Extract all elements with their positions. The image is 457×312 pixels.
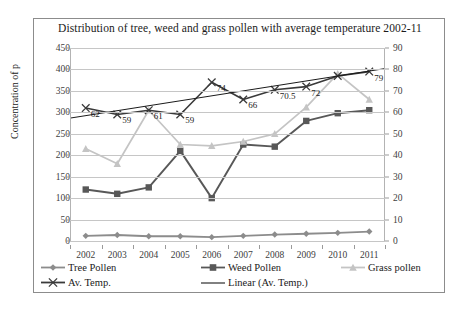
x-tick-mark xyxy=(228,245,229,249)
legend-label: Weed Pollen xyxy=(228,262,281,273)
y-tick-label-left: 250 xyxy=(34,129,70,139)
data-label: 59 xyxy=(185,115,194,125)
y-tick-label-left: 0 xyxy=(34,236,70,246)
legend-swatch-triangle-icon xyxy=(340,262,366,273)
gridline xyxy=(70,241,385,242)
y-tick-mark-right xyxy=(385,133,389,134)
y-tick-mark-right xyxy=(385,176,389,177)
legend-label: Tree Pollen xyxy=(68,262,116,273)
y-tick-label-right: 70 xyxy=(393,86,427,96)
y-tick-mark-right xyxy=(385,198,389,199)
y-tick-label-right: 20 xyxy=(393,193,427,203)
y-tick-label-right: 40 xyxy=(393,150,427,160)
y-tick-label-left: 100 xyxy=(34,193,70,203)
x-tick-label: 2011 xyxy=(360,250,379,260)
data-point-marker xyxy=(50,264,57,271)
x-tick-label: 2004 xyxy=(139,250,158,260)
legend-label: Linear (Av. Temp.) xyxy=(228,277,308,288)
legend-item[interactable]: Linear (Av. Temp.) xyxy=(200,277,308,288)
x-tick-label: 2008 xyxy=(265,250,284,260)
gridline xyxy=(70,91,385,92)
data-label: 72 xyxy=(311,88,320,98)
data-label: 79 xyxy=(374,73,383,83)
gridline xyxy=(70,134,385,135)
y-tick-mark-right xyxy=(385,219,389,220)
x-tick-label: 2003 xyxy=(108,250,127,260)
legend-swatch-x-icon xyxy=(40,277,66,288)
x-tick-mark xyxy=(354,245,355,249)
x-tick-label: 2009 xyxy=(297,250,316,260)
y-tick-label-left: 50 xyxy=(34,215,70,225)
legend-swatch-diamond-icon xyxy=(40,262,66,273)
chart-title: Distribution of tree, weed and grass pol… xyxy=(40,22,440,34)
y-axis-left-title: Concentration of p xyxy=(9,42,20,162)
x-tick-mark xyxy=(196,245,197,249)
legend-swatch-none-icon xyxy=(200,277,226,288)
gridline xyxy=(70,69,385,70)
y-tick-mark-right xyxy=(385,241,389,242)
gridline xyxy=(70,198,385,199)
x-tick-mark xyxy=(291,245,292,249)
chart-container: Distribution of tree, weed and grass pol… xyxy=(0,0,457,312)
legend-label: Grass pollen xyxy=(368,262,421,273)
legend-item[interactable]: Av. Temp. xyxy=(40,277,111,288)
data-label: 61 xyxy=(154,111,163,121)
gridline xyxy=(70,155,385,156)
y-tick-mark-right xyxy=(385,155,389,156)
y-tick-label-left: 300 xyxy=(34,107,70,117)
data-point-marker xyxy=(210,264,217,271)
y-tick-label-right: 60 xyxy=(393,107,427,117)
y-tick-label-right: 50 xyxy=(393,129,427,139)
legend-item[interactable]: Grass pollen xyxy=(340,262,421,273)
y-tick-label-left: 150 xyxy=(34,172,70,182)
y-tick-label-right: 10 xyxy=(393,215,427,225)
gridline xyxy=(70,177,385,178)
chart-legend: Tree PollenWeed PollenGrass pollenAv. Te… xyxy=(40,262,440,292)
gridline xyxy=(70,112,385,113)
data-label: 66 xyxy=(248,100,257,110)
y-tick-label-right: 0 xyxy=(393,236,427,246)
gridline xyxy=(70,48,385,49)
y-tick-mark-right xyxy=(385,112,389,113)
data-label: 59 xyxy=(122,115,131,125)
legend-item[interactable]: Tree Pollen xyxy=(40,262,116,273)
y-tick-mark-right xyxy=(385,48,389,49)
x-tick-mark xyxy=(102,245,103,249)
x-tick-label: 2005 xyxy=(171,250,190,260)
legend-swatch-square-icon xyxy=(200,262,226,273)
x-tick-label: 2010 xyxy=(328,250,347,260)
data-label: 70.5 xyxy=(280,91,296,101)
y-tick-mark-right xyxy=(385,69,389,70)
plot-frame xyxy=(70,48,385,241)
y-tick-mark-right xyxy=(385,90,389,91)
legend-item[interactable]: Weed Pollen xyxy=(200,262,281,273)
plot-area: 62596159746670.57279 xyxy=(70,48,385,241)
x-tick-mark xyxy=(259,245,260,249)
data-label: 74 xyxy=(217,83,226,93)
x-tick-mark xyxy=(322,245,323,249)
y-tick-label-left: 350 xyxy=(34,86,70,96)
x-tick-label: 2007 xyxy=(234,250,253,260)
x-tick-mark xyxy=(165,245,166,249)
y-tick-label-right: 30 xyxy=(393,172,427,182)
x-axis: 2002200320042005200620072008200920102011 xyxy=(70,245,385,261)
x-tick-mark xyxy=(70,245,71,249)
x-tick-label: 2006 xyxy=(202,250,221,260)
x-tick-mark xyxy=(385,245,386,249)
y-tick-label-left: 450 xyxy=(34,43,70,53)
y-tick-label-left: 400 xyxy=(34,64,70,74)
y-axis-right: 0102030405060708090 xyxy=(385,48,425,241)
y-tick-label-right: 90 xyxy=(393,43,427,53)
x-tick-mark xyxy=(133,245,134,249)
y-axis-left: 050100150200250300350400450 xyxy=(30,48,70,241)
x-tick-label: 2002 xyxy=(76,250,95,260)
y-tick-label-right: 80 xyxy=(393,64,427,74)
legend-label: Av. Temp. xyxy=(68,277,111,288)
data-label: 62 xyxy=(91,109,100,119)
y-tick-label-left: 200 xyxy=(34,150,70,160)
gridline xyxy=(70,220,385,221)
